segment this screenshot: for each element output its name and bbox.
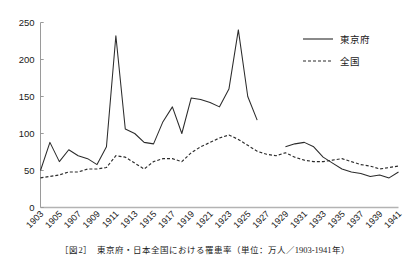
x-tick-label: 1911 (100, 209, 121, 230)
x-tick-label: 1933 (307, 209, 328, 230)
x-tick-label: 1921 (194, 209, 215, 230)
x-tick-label: 1907 (62, 209, 83, 230)
x-tick-label: 1929 (269, 209, 290, 230)
x-tick-label: 1925 (231, 209, 252, 230)
legend-label-2: 全国 (340, 56, 360, 67)
x-tick-label: 1923 (213, 209, 234, 230)
x-tick-label: 1927 (250, 209, 271, 230)
x-tick-label: 1939 (363, 209, 384, 230)
line-chart: 0501001502002501903190519071909191119131… (0, 0, 410, 255)
series-line-2 (41, 135, 399, 178)
legend: 東京府全国 (303, 34, 370, 67)
x-axis-ticks: 1903190519071909191119131915191719191921… (24, 209, 403, 230)
figure-container: 0501001502002501903190519071909191119131… (0, 0, 410, 255)
x-tick-label: 1905 (43, 209, 64, 230)
y-tick-label: 0 (29, 202, 34, 213)
x-tick-label: 1937 (344, 209, 365, 230)
x-tick-label: 1909 (81, 209, 102, 230)
y-tick-label: 200 (19, 54, 35, 65)
y-tick-label: 150 (19, 91, 35, 102)
y-axis-ticks: 050100150200250 (19, 17, 44, 213)
y-tick-label: 50 (24, 165, 35, 176)
figure-caption: ［図2］ 東京府・日本全国における罹患率（単位：万人／1903-1941年） (0, 244, 410, 255)
y-tick-label: 100 (19, 128, 35, 139)
series-line-1 (41, 30, 258, 171)
x-tick-label: 1919 (175, 209, 196, 230)
x-tick-label: 1935 (326, 209, 347, 230)
x-tick-label: 1915 (137, 209, 158, 230)
x-tick-label: 1913 (118, 209, 139, 230)
x-tick-label: 1941 (382, 209, 403, 230)
series-group (41, 30, 399, 178)
x-tick-label: 1903 (24, 209, 45, 230)
y-tick-label: 250 (19, 17, 35, 28)
x-tick-label: 1931 (288, 209, 309, 230)
x-tick-label: 1917 (156, 209, 177, 230)
axes (41, 23, 399, 208)
legend-label-1: 東京府 (340, 34, 370, 45)
